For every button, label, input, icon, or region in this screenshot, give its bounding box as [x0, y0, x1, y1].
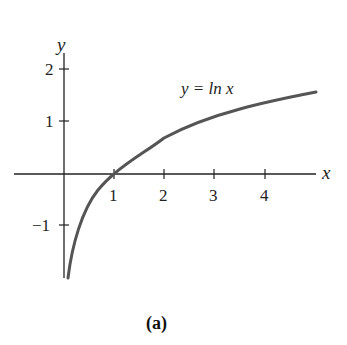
tick-label-y1: 1 — [45, 113, 54, 130]
figure-caption: (a) — [146, 313, 167, 334]
tick-label-x4: 4 — [260, 187, 269, 204]
ln-curve — [68, 92, 316, 278]
tick-label-x3: 3 — [209, 187, 218, 204]
tick-label-x1: 1 — [109, 187, 118, 204]
tick-label-ym1: −1 — [32, 217, 50, 234]
plot-area — [0, 0, 347, 345]
tick-label-x2: 2 — [159, 187, 168, 204]
x-axis-label: x — [322, 163, 330, 182]
tick-label-y2: 2 — [45, 61, 54, 78]
y-axis-label: y — [57, 35, 65, 54]
curve-label-text: y = ln x — [181, 79, 234, 98]
curve-label: y = ln x — [181, 80, 234, 97]
